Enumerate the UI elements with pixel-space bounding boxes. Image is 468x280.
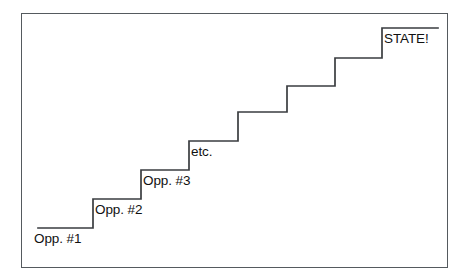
step-label-opp-2: Opp. #2 (95, 202, 142, 217)
step-label-etc: etc. (191, 144, 212, 159)
step-label-state: STATE! (384, 31, 429, 46)
staircase-polyline (38, 28, 438, 228)
step-label-opp-3: Opp. #3 (143, 173, 190, 188)
staircase-figure: Opp. #1 Opp. #2 Opp. #3 etc. STATE! (0, 0, 468, 280)
step-label-opp-1: Opp. #1 (34, 231, 81, 246)
